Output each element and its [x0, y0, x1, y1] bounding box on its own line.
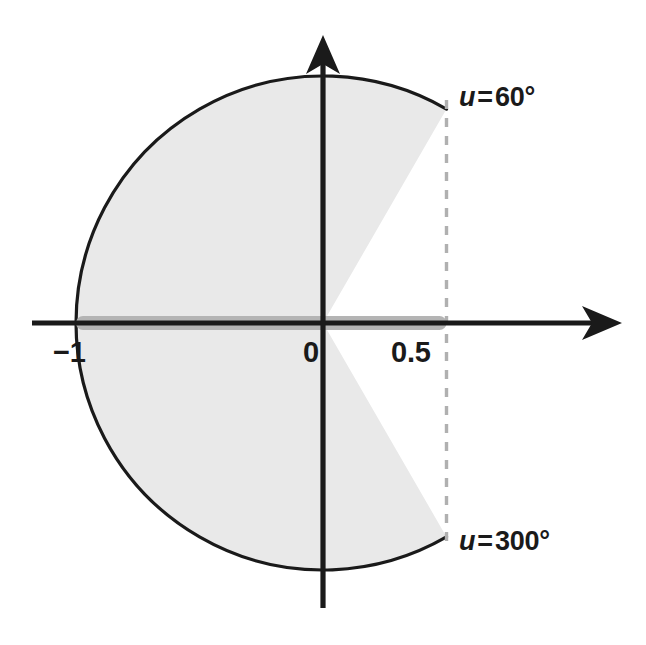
annotation-angle-upper: u=60° [459, 84, 535, 111]
annotation-angle-upper-equals: = [477, 82, 493, 112]
annotation-angle-lower: u=300° [459, 528, 550, 555]
annotation-angle-lower-value: 300° [495, 526, 550, 556]
tick-label-minus-one: −1 [53, 338, 86, 367]
tick-label-zero-point-five: 0.5 [391, 338, 431, 367]
annotation-angle-upper-value: 60° [495, 82, 535, 112]
annotation-angle-lower-equals: = [477, 526, 493, 556]
figure-root: −1 0 0.5 u=60° u=300° [0, 0, 646, 645]
tick-label-origin: 0 [303, 338, 319, 367]
annotation-angle-lower-variable: u [459, 526, 475, 556]
annotation-angle-upper-variable: u [459, 82, 475, 112]
